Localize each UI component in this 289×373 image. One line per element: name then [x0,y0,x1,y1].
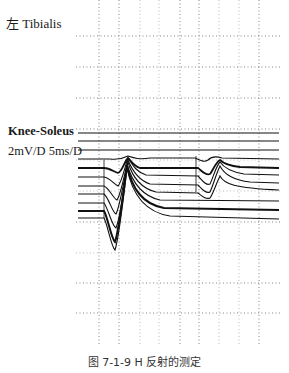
emg-traces [78,133,279,250]
trace-4 [78,156,279,161]
trace-5 [78,158,279,174]
figure-caption: 图 7-1-9 H 反射的测定 [0,353,289,369]
emg-chart [0,0,289,373]
grid [76,0,280,345]
trace-7 [78,160,279,200]
trace-8 [78,162,279,214]
